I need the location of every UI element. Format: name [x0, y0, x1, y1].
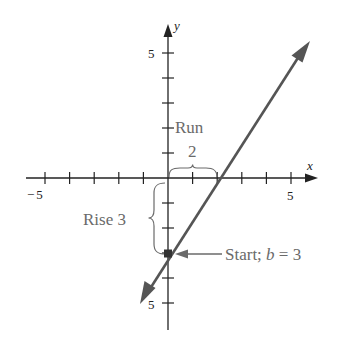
start-pointer	[175, 250, 222, 259]
rise-label: Rise 3	[83, 210, 126, 229]
start-arrow-icon	[175, 250, 188, 259]
line-y-equals-1.5x-minus-3	[140, 41, 310, 304]
line-arrow-up-icon	[292, 41, 311, 63]
x-tick-label-neg5: −5	[27, 187, 43, 202]
y-tick-label-neg5: 5	[148, 297, 155, 312]
y-axis-arrow-icon	[164, 24, 173, 37]
start-label: Start; b = 3	[225, 245, 301, 264]
x-tick-label-5: 5	[287, 188, 294, 203]
run-value: 2	[188, 142, 197, 161]
run-label: Run	[175, 118, 204, 137]
y-tick-label-5: 5	[148, 46, 155, 61]
y-axis-label: y	[172, 18, 180, 33]
x-axis: −5 5 x	[26, 158, 318, 203]
start-label-var: b	[266, 245, 275, 264]
start-label-suffix: = 3	[275, 245, 302, 264]
x-axis-label: x	[306, 158, 313, 173]
start-label-prefix: Start;	[225, 245, 266, 264]
x-axis-arrow-icon	[305, 174, 318, 183]
start-point-marker	[164, 250, 172, 258]
slope-intercept-diagram: −5 5 x 5 5 y	[0, 0, 350, 338]
rise-brace	[149, 183, 166, 254]
